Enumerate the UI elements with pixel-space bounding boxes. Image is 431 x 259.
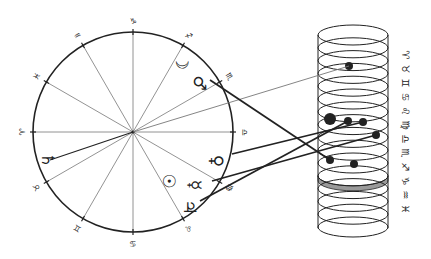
planet-dot bbox=[324, 113, 336, 125]
sign-label-capricorn: ♑ bbox=[129, 17, 136, 26]
sign-label-gemini: ♊ bbox=[72, 222, 83, 233]
cylinder-ring bbox=[318, 51, 388, 71]
sign-label-scorpio: ♏ bbox=[223, 71, 235, 82]
diagram-canvas: ♑♐♏♎♍♌♋♊♉♈♓♒☽♂♄♀☉☿♃ ♈♉♊♋♌♍♎♏♐♑♒♓ bbox=[0, 0, 431, 259]
planet-dot bbox=[350, 160, 358, 168]
cylinder-label-pisces: ♓ bbox=[400, 205, 411, 214]
cylinder-label-leo: ♌ bbox=[400, 107, 411, 116]
cylinder-label-scorpio: ♏ bbox=[400, 149, 411, 158]
venus-icon: ♀ bbox=[207, 155, 227, 167]
cylinder-label-aquarius: ♒ bbox=[400, 191, 411, 200]
sign-label-libra: ♎ bbox=[240, 128, 249, 135]
cylinder-ring bbox=[318, 76, 388, 96]
cylinder-ring bbox=[318, 217, 388, 237]
saturn-icon: ♄ bbox=[38, 152, 58, 167]
spoke-aquarius bbox=[83, 45, 133, 132]
moon-icon: ☽ bbox=[172, 54, 192, 69]
cylinder-ring bbox=[318, 166, 388, 186]
cylinder-label-taurus: ♉ bbox=[400, 65, 411, 74]
sign-label-pisces: ♓ bbox=[31, 71, 42, 82]
zodiac-cylinder: ♈♉♊♋♌♍♎♏♐♑♒♓ bbox=[318, 25, 411, 237]
cylinder-label-aries: ♈ bbox=[400, 51, 411, 60]
mercury-icon: ☿ bbox=[185, 180, 205, 190]
zodiac-diagram: ♑♐♏♎♍♌♋♊♉♈♓♒☽♂♄♀☉☿♃ ♈♉♊♋♌♍♎♏♐♑♒♓ bbox=[0, 0, 431, 259]
cylinder-ring bbox=[318, 89, 388, 109]
cylinder-label-sagittarius: ♐ bbox=[400, 163, 411, 172]
cylinder-label-gemini: ♊ bbox=[400, 79, 411, 88]
cylinder-label-virgo: ♍ bbox=[400, 121, 411, 130]
sign-label-taurus: ♉ bbox=[31, 182, 42, 193]
connector-line bbox=[210, 80, 330, 160]
cylinder-ring bbox=[318, 204, 388, 224]
sign-label-aries: ♈ bbox=[18, 128, 27, 135]
sign-label-leo: ♌ bbox=[183, 222, 194, 233]
sun-icon: ☉ bbox=[159, 173, 179, 188]
sign-label-sagittarius: ♐ bbox=[183, 30, 194, 41]
jupiter-icon: ♃ bbox=[180, 199, 200, 214]
cylinder-ring bbox=[318, 191, 388, 211]
sign-label-aquarius: ♒ bbox=[72, 30, 83, 41]
cylinder-ring bbox=[318, 25, 388, 45]
spoke-pisces bbox=[46, 82, 133, 132]
spoke-gemini bbox=[83, 132, 133, 219]
cylinder-label-libra: ♎ bbox=[400, 135, 411, 144]
sign-label-cancer: ♋ bbox=[129, 239, 136, 248]
mars-icon: ♂ bbox=[190, 75, 210, 90]
cylinder-ring bbox=[318, 38, 388, 58]
cylinder-ring bbox=[318, 63, 388, 83]
cylinder-label-cancer: ♋ bbox=[400, 93, 411, 102]
cylinder-label-capricorn: ♑ bbox=[400, 177, 411, 186]
connector-line bbox=[212, 135, 376, 181]
